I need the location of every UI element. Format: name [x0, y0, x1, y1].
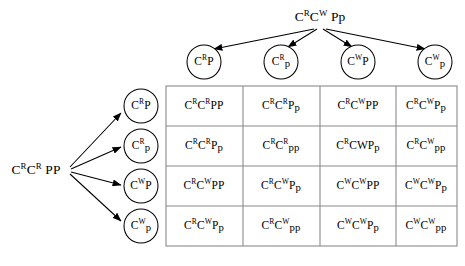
- punnett-cell-r4c4: CWCWpp: [406, 220, 447, 232]
- left-gamete-label-4: CWp: [131, 220, 152, 232]
- punnett-cell-r1c1: CRCRPP: [185, 100, 224, 112]
- punnett-cell-r1c4: CRCWPp: [406, 100, 446, 112]
- left-arrow-group: [70, 113, 121, 221]
- top-arrow-group: [214, 29, 425, 49]
- punnett-cell-r4c1: CRCWPp: [184, 220, 224, 232]
- punnett-cell-r4c3: CWCWPp: [337, 220, 379, 232]
- punnett-cell-r3c2: CRCWPp: [261, 180, 301, 192]
- top-gamete-label-3: CWP: [347, 56, 369, 68]
- punnett-cell-r2c3: CRCWPp: [336, 140, 380, 152]
- left-gamete-label-2: CRp: [132, 140, 150, 152]
- punnett-cell-r3c3: CWCWPP: [336, 180, 379, 192]
- punnett-cell-r4c2: CRCWpp: [262, 220, 301, 232]
- left-arrow-1: [70, 113, 121, 167]
- top-parent-genotype: CRCW Pp: [295, 10, 346, 24]
- left-arrow-2: [71, 147, 121, 169]
- left-parent-genotype: CRCR PP: [11, 163, 60, 177]
- left-arrow-4: [70, 174, 121, 221]
- punnett-square-diagram: CRCW Pp CRCR PP CRP CRp CWP CWp CRP CRp …: [0, 0, 465, 266]
- top-gamete-label-4: CWp: [425, 56, 446, 68]
- top-gamete-label-1: CRP: [194, 56, 213, 68]
- diagram-vector-layer: [0, 0, 465, 266]
- punnett-cell-r3c4: CWCWPp: [405, 180, 447, 192]
- top-arrow-1: [214, 29, 314, 49]
- top-arrow-3: [323, 29, 352, 47]
- top-gamete-label-2: CRp: [272, 56, 290, 68]
- top-arrow-2: [288, 29, 317, 47]
- left-arrow-3: [71, 172, 121, 185]
- punnett-cell-r2c2: CRCRpp: [263, 140, 300, 152]
- punnett-cell-r1c3: CRCWPP: [338, 100, 379, 112]
- punnett-cell-r1c2: CRCRPp: [262, 100, 300, 112]
- punnett-cell-r2c1: CRCRPp: [185, 140, 223, 152]
- left-gamete-label-3: CWP: [130, 180, 152, 192]
- punnett-cell-r2c4: CRCWpp: [407, 140, 446, 152]
- top-arrow-4: [326, 29, 425, 49]
- left-gamete-label-1: CRP: [131, 100, 150, 112]
- top-gamete-circles: [187, 45, 452, 79]
- punnett-cell-r3c1: CRCWPP: [184, 180, 225, 192]
